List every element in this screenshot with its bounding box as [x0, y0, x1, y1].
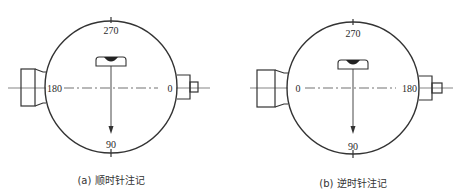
label-right: 0: [168, 83, 173, 94]
label-left: 0: [296, 83, 301, 94]
diagram-clockwise: [8, 17, 210, 157]
left-handle-taper-top: [35, 69, 46, 72]
level-bubble: [104, 57, 118, 62]
label-left: 180: [47, 83, 62, 94]
caption-b: (b) 逆时针注记: [319, 177, 386, 189]
label-top: 270: [104, 25, 119, 36]
caption-a: (a) 顺时针注记: [77, 174, 144, 186]
label-right: 180: [402, 83, 417, 94]
left-handle-taper-top: [275, 70, 288, 73]
label-bottom: 90: [348, 141, 358, 152]
right-knob-tip: [190, 82, 198, 92]
left-handle-taper-bottom: [275, 104, 288, 107]
level-bubble: [346, 60, 360, 65]
diagram-counterclockwise: [250, 19, 453, 158]
right-knob-block: [177, 75, 190, 99]
arrow-down-icon: [109, 126, 114, 134]
label-bottom: 90: [106, 139, 116, 150]
left-handle-block: [257, 70, 275, 107]
label-top: 270: [346, 28, 361, 39]
arrow-down-icon: [351, 126, 356, 134]
left-handle-taper-bottom: [35, 103, 46, 106]
figure-canvas: 270 90 180 0 (a) 顺时针注记 270 90 0 180 (b) …: [0, 0, 461, 195]
left-handle-block: [21, 69, 35, 106]
